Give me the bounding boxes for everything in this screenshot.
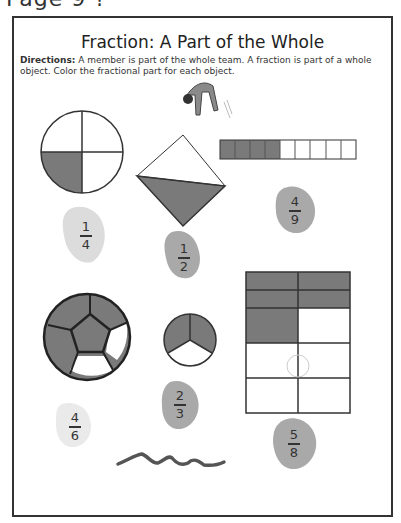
diamond-halves[interactable]: [137, 135, 225, 226]
wave-decoration: [118, 454, 224, 465]
numerator: 1: [82, 220, 90, 234]
denominator: 9: [291, 213, 299, 227]
numerator: 4: [71, 411, 79, 425]
fraction-label-4-9: 49: [281, 189, 309, 233]
denominator: 3: [176, 407, 184, 421]
diver-icon: [183, 83, 232, 118]
numerator: 1: [180, 242, 188, 256]
fraction-label-1-2: 12: [170, 236, 198, 280]
fraction-label-1-4: 14: [72, 214, 100, 258]
numerator: 4: [291, 195, 299, 209]
numerator: 2: [176, 389, 184, 403]
grid-eighths[interactable]: [246, 272, 350, 413]
denominator: 2: [180, 260, 188, 274]
circle-thirds[interactable]: [164, 314, 216, 366]
bar-ninths[interactable]: [220, 140, 356, 159]
fraction-label-5-8: 58: [280, 422, 308, 466]
soccer-ball[interactable]: [44, 294, 130, 380]
numerator: 5: [290, 428, 298, 442]
fraction-label-2-3: 23: [166, 383, 194, 427]
denominator: 8: [290, 446, 298, 460]
fraction-label-4-6: 46: [61, 405, 89, 449]
circle-quarters[interactable]: [41, 111, 123, 193]
denominator: 4: [82, 238, 90, 252]
denominator: 6: [71, 429, 79, 443]
